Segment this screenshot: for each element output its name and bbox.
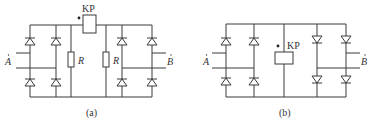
diode-icon <box>221 78 231 85</box>
input-label-a: A <box>202 56 210 67</box>
figure-caption-b: (b) <box>279 107 291 119</box>
diode-icon <box>312 36 322 43</box>
diode-icon <box>25 79 35 86</box>
circuit-diagrams: R R KP A B (a) <box>0 0 376 124</box>
resistor-label: R <box>112 55 119 66</box>
figure-a: R R KP A B (a) <box>4 3 173 119</box>
diode-icon <box>341 36 351 43</box>
diode-icon <box>51 38 61 45</box>
phasor-dot-icon <box>170 54 171 55</box>
diode-icon <box>117 79 127 86</box>
phasor-dot-icon <box>364 54 365 55</box>
diode-icon <box>312 76 322 83</box>
output-label-b: B <box>167 56 173 67</box>
resistor-label: R <box>77 55 84 66</box>
diode-icon <box>147 79 157 86</box>
phasor-dot-icon <box>206 54 207 55</box>
resistor-icon <box>103 52 109 67</box>
relay-coil-icon <box>83 15 96 33</box>
diode-icon <box>249 38 259 45</box>
diode-icon <box>147 38 157 45</box>
output-label-b: B <box>361 56 367 67</box>
figure-caption-a: (a) <box>86 107 97 119</box>
diode-icon <box>249 78 259 85</box>
phasor-dot-icon <box>8 54 9 55</box>
relay-coil-icon <box>275 52 293 64</box>
diode-icon <box>341 76 351 83</box>
resistor-icon <box>68 52 74 67</box>
diode-icon <box>25 38 35 45</box>
diode-icon <box>221 38 231 45</box>
diode-icon <box>117 38 127 45</box>
polarity-dot-icon <box>78 17 81 20</box>
figure-b: KP A B (b) <box>202 24 367 119</box>
relay-label: KP <box>82 3 95 14</box>
relay-label: KP <box>287 40 300 51</box>
input-label-a: A <box>4 56 12 67</box>
polarity-dot-icon <box>277 45 280 48</box>
diode-icon <box>51 79 61 86</box>
